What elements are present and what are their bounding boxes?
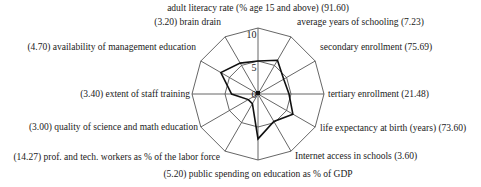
tick-label: 0 bbox=[252, 89, 257, 100]
axis-label: (3.00) quality of science and math educa… bbox=[29, 122, 198, 133]
axis-label: average years of schooling (7.23) bbox=[297, 17, 424, 28]
axis-label: (3.40) extent of staff training bbox=[80, 89, 190, 100]
axis-spoke bbox=[258, 94, 291, 151]
tick-label: 5 bbox=[252, 62, 257, 73]
axis-label: (5.20) public spending on education as %… bbox=[163, 169, 352, 180]
axis-label: Internet access in schools (3.60) bbox=[295, 151, 417, 162]
axis-label: secondary enrollment (75.69) bbox=[320, 42, 432, 53]
radar-chart: 0510 adult literacy rate (% age 15 and a… bbox=[0, 0, 481, 187]
axis-label: life expectancy at birth (years) (73.60) bbox=[320, 123, 466, 134]
axis-label: (14.27) prof. and tech. workers as % of … bbox=[13, 152, 220, 163]
axis-labels: adult literacy rate (% age 15 and above)… bbox=[13, 3, 466, 180]
axis-label: (4.70) availability of management educat… bbox=[27, 42, 196, 53]
axis-spoke bbox=[201, 94, 258, 127]
axis-label: tertiary enrollment (21.48) bbox=[328, 89, 429, 100]
center-marker bbox=[256, 91, 260, 95]
axis-spoke bbox=[225, 94, 258, 151]
data-polygon bbox=[221, 60, 293, 139]
axis-label: (3.20) brain drain bbox=[154, 17, 221, 28]
axis-label: adult literacy rate (% age 15 and above)… bbox=[167, 3, 349, 14]
scale-ticks: 0510 bbox=[247, 29, 257, 100]
tick-label: 10 bbox=[247, 29, 257, 40]
axis-spoke bbox=[258, 94, 315, 127]
